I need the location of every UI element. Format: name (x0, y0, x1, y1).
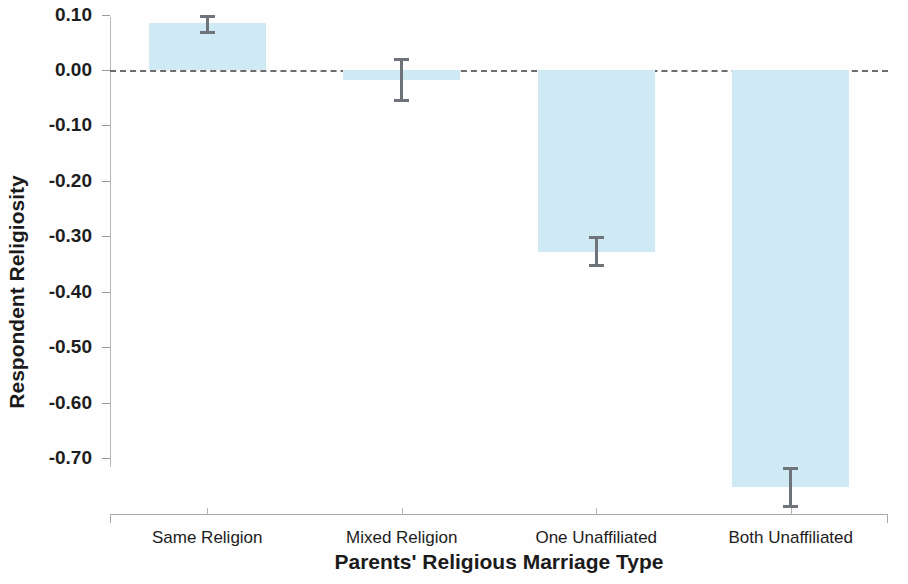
y-axis-tick (102, 403, 110, 404)
y-axis-title: Respondent Religiosity (0, 0, 34, 584)
x-axis-tick-label: Same Religion (152, 528, 263, 548)
y-axis-tick-label: -0.20 (49, 170, 92, 192)
x-axis-title: Parents' Religious Marriage Type (110, 550, 888, 574)
bar (538, 70, 655, 252)
y-axis-tick-label: 0.10 (55, 4, 92, 26)
y-axis-tick (102, 347, 110, 348)
error-bar-cap-upper (200, 15, 215, 18)
y-axis-tick (102, 70, 110, 71)
y-axis-tick-label: -0.50 (49, 336, 92, 358)
error-bar (789, 467, 792, 507)
x-axis-tick (402, 508, 403, 515)
y-axis-tick-label: -0.60 (49, 392, 92, 414)
error-bar-cap-lower (200, 31, 215, 34)
x-axis-tick (791, 508, 792, 515)
y-axis-tick-label: -0.10 (49, 114, 92, 136)
error-bar (400, 58, 403, 102)
bar (732, 70, 849, 487)
error-bar-cap-lower (394, 99, 409, 102)
x-axis-tick-label: One Unaffiliated (535, 528, 657, 548)
y-axis-tick (102, 236, 110, 237)
x-axis-tick (596, 508, 597, 515)
y-axis-tick-label: -0.30 (49, 225, 92, 247)
x-axis-tick (207, 508, 208, 515)
x-axis-right-cap (887, 514, 888, 523)
error-bar (595, 236, 598, 266)
x-axis-line (110, 514, 888, 515)
y-axis-tick (102, 125, 110, 126)
plot-area: 0.100.00-0.10-0.20-0.30-0.40-0.50-0.60-0… (110, 8, 888, 514)
y-axis-tick (102, 15, 110, 16)
y-axis-tick-label: 0.00 (55, 59, 92, 81)
error-bar-cap-lower (589, 264, 604, 267)
error-bar-cap-upper (394, 58, 409, 61)
y-axis-line (110, 17, 111, 467)
y-axis-tick (102, 181, 110, 182)
x-axis-tick-label: Mixed Religion (346, 528, 458, 548)
chart-figure: Respondent Religiosity 0.100.00-0.10-0.2… (0, 0, 908, 584)
x-axis-left-cap (110, 514, 111, 523)
y-axis-tick-label: -0.40 (49, 281, 92, 303)
x-axis-tick-label: Both Unaffiliated (729, 528, 853, 548)
error-bar-cap-upper (589, 236, 604, 239)
error-bar-cap-upper (783, 467, 798, 470)
y-axis-tick (102, 458, 110, 459)
y-axis-tick-label: -0.70 (49, 447, 92, 469)
y-axis-tick (102, 292, 110, 293)
